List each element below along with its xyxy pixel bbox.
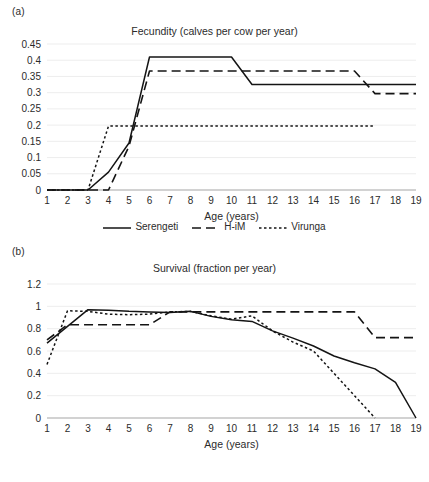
x-tick-label: 7 — [167, 423, 173, 434]
y-tick-label: 0 — [35, 413, 41, 424]
figure-container: (a) Fecundity (calves per cow per year) … — [0, 0, 429, 482]
x-tick-label: 5 — [126, 423, 132, 434]
series-line-serengeti — [47, 310, 416, 418]
x-tick-label: 1 — [44, 423, 50, 434]
x-tick-label: 12 — [267, 195, 279, 206]
fecundity-plot: 00.050.10.150.20.250.30.350.40.451234567… — [0, 0, 429, 240]
legend-swatch-dotted — [259, 223, 287, 231]
x-tick-label: 15 — [328, 423, 340, 434]
survival-plot: 00.20.40.60.811.212345678910111213141516… — [0, 240, 429, 482]
x-tick-label: 19 — [410, 423, 422, 434]
y-tick-label: 0.25 — [22, 103, 42, 114]
legend-item-h-im[interactable]: H-iM — [192, 222, 245, 232]
x-tick-label: 10 — [226, 423, 238, 434]
legend-swatch-dashed — [192, 223, 220, 231]
x-tick-label: 8 — [188, 423, 194, 434]
y-tick-label: 0.2 — [27, 120, 41, 131]
x-tick-label: 12 — [267, 423, 279, 434]
series-line-serengeti — [47, 57, 416, 190]
x-tick-label: 17 — [369, 423, 381, 434]
x-tick-label: 13 — [287, 423, 299, 434]
legend-label: Virunga — [291, 222, 325, 232]
y-tick-label: 0.2 — [27, 390, 41, 401]
x-tick-label: 2 — [65, 423, 71, 434]
x-tick-label: 16 — [349, 423, 361, 434]
chart-panel-a: (a) Fecundity (calves per cow per year) … — [0, 0, 429, 240]
y-tick-label: 0.05 — [22, 168, 42, 179]
series-line-h-im — [47, 312, 416, 340]
x-tick-label: 4 — [106, 195, 112, 206]
y-tick-label: 0.8 — [27, 323, 41, 334]
x-tick-label: 6 — [147, 195, 153, 206]
x-tick-label: 9 — [208, 195, 214, 206]
legend-a: SerengetiH-iMVirunga — [0, 222, 429, 232]
x-tick-label: 2 — [65, 195, 71, 206]
y-tick-label: 1 — [35, 301, 41, 312]
y-tick-label: 0.3 — [27, 87, 41, 98]
x-tick-label: 16 — [349, 195, 361, 206]
series-line-virunga — [47, 126, 375, 190]
y-tick-label: 0.35 — [22, 71, 42, 82]
x-tick-label: 14 — [308, 423, 320, 434]
x-tick-label: 15 — [328, 195, 340, 206]
legend-label: Serengeti — [135, 222, 178, 232]
y-tick-label: 0.4 — [27, 55, 41, 66]
x-tick-label: 11 — [247, 195, 258, 206]
x-tick-label: 18 — [390, 195, 402, 206]
x-tick-label: 18 — [390, 423, 402, 434]
x-tick-label: 10 — [226, 195, 238, 206]
legend-item-virunga[interactable]: Virunga — [259, 222, 325, 232]
x-tick-label: 17 — [369, 195, 381, 206]
y-tick-label: 0.1 — [27, 152, 41, 163]
x-tick-label: 9 — [208, 423, 214, 434]
x-tick-label: 4 — [106, 423, 112, 434]
y-tick-label: 0.4 — [27, 368, 41, 379]
legend-item-serengeti[interactable]: Serengeti — [103, 222, 178, 232]
series-line-h-im — [47, 71, 416, 190]
x-tick-label: 1 — [44, 195, 50, 206]
x-tick-label: 7 — [167, 195, 173, 206]
x-tick-label: 8 — [188, 195, 194, 206]
chart-panel-b: (b) Survival (fraction per year) 00.20.4… — [0, 240, 429, 482]
series-line-virunga — [47, 311, 375, 418]
x-tick-label: 5 — [126, 195, 132, 206]
y-tick-label: 0.15 — [22, 136, 42, 147]
y-tick-label: 0.6 — [27, 346, 41, 357]
x-tick-label: 13 — [287, 195, 299, 206]
x-axis-title: Age (years) — [204, 438, 258, 450]
y-tick-label: 0 — [35, 185, 41, 196]
x-tick-label: 6 — [147, 423, 153, 434]
y-tick-label: 1.2 — [27, 279, 41, 290]
y-tick-label: 0.45 — [22, 39, 42, 50]
legend-label: H-iM — [224, 222, 245, 232]
x-tick-label: 3 — [85, 195, 91, 206]
x-tick-label: 3 — [85, 423, 91, 434]
x-tick-label: 14 — [308, 195, 320, 206]
x-tick-label: 19 — [410, 195, 422, 206]
legend-swatch-solid — [103, 223, 131, 231]
x-tick-label: 11 — [247, 423, 258, 434]
